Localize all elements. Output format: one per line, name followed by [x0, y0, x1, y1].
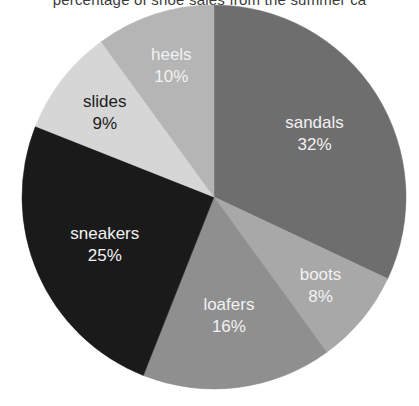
pie-chart-area: sandals32%boots8%loafers16%sneakers25%sl…: [0, 0, 419, 406]
pie-label-value-boots: 8%: [308, 287, 333, 306]
pie-label-name-sandals: sandals: [285, 113, 344, 132]
pie-svg: sandals32%boots8%loafers16%sneakers25%sl…: [0, 0, 419, 406]
pie-label-value-loafers: 16%: [212, 317, 246, 336]
pie-label-name-boots: boots: [300, 265, 342, 284]
pie-label-name-heels: heels: [151, 45, 192, 64]
pie-chart-figure: percentage of shoe sales from the summer…: [0, 0, 419, 406]
pie-label-value-slides: 9%: [93, 114, 118, 133]
pie-label-value-sandals: 32%: [297, 135, 331, 154]
pie-label-value-heels: 10%: [154, 67, 188, 86]
pie-label-name-loafers: loafers: [203, 295, 254, 314]
pie-label-value-sneakers: 25%: [88, 246, 122, 265]
pie-label-name-slides: slides: [83, 92, 126, 111]
pie-label-name-sneakers: sneakers: [70, 224, 139, 243]
